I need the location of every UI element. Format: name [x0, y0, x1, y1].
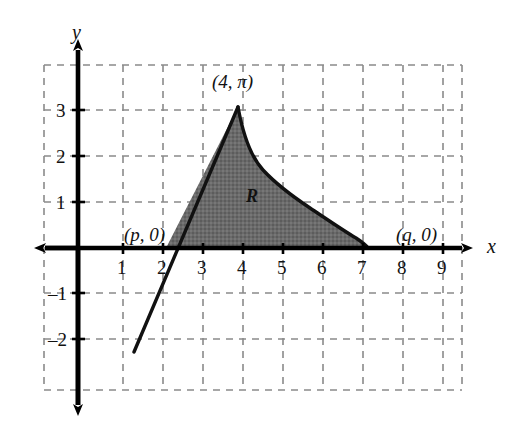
y-tick-label-neg2: –2	[48, 330, 67, 349]
x-tick-label-6: 6	[317, 258, 327, 277]
y-tick-label-neg1: –1	[48, 284, 67, 303]
peak-point-label: (4, π)	[212, 72, 253, 91]
y-tick-label-3: 3	[56, 101, 66, 120]
x-tick-label-1: 1	[117, 258, 127, 277]
x-tick-label-7: 7	[357, 258, 367, 277]
x-tick-label-2: 2	[157, 258, 167, 277]
left-root-point-label: (p, 0)	[124, 225, 165, 244]
right-root-point-label: (q, 0)	[396, 225, 437, 244]
graph-figure: y x 1 2 3 4 5 6 7 8 9 3 2 1 –1 –2 (4, π)…	[0, 0, 524, 422]
x-tick-label-5: 5	[277, 258, 287, 277]
y-axis-label: y	[72, 22, 81, 42]
x-tick-label-4: 4	[237, 258, 247, 277]
x-tick-label-9: 9	[437, 258, 447, 277]
x-tick-label-8: 8	[397, 258, 407, 277]
x-tick-label-3: 3	[197, 258, 207, 277]
coordinate-plane-svg	[0, 0, 524, 422]
region-label-R: R	[246, 187, 258, 205]
y-tick-label-2: 2	[56, 147, 66, 166]
y-tick-label-1: 1	[56, 193, 66, 212]
x-axis-label: x	[487, 236, 496, 256]
